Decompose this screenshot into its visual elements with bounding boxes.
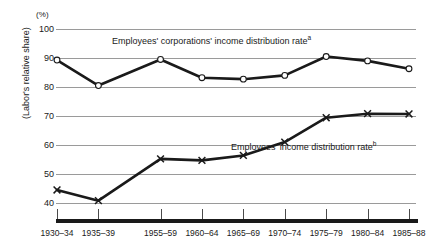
y-axis-tick-60: 60 (28, 140, 54, 150)
y-axis-tick-100: 100 (28, 24, 54, 34)
x-axis-tick-label-0: 1930–34 (40, 228, 73, 238)
x-axis-tick-label-8: 1985–88 (392, 228, 425, 238)
data-point-0-4 (240, 76, 246, 82)
x-axis-tickmark-3 (202, 209, 203, 219)
y-axis-tick-50: 50 (28, 169, 54, 179)
gridline-40 (56, 203, 416, 204)
footnote-marker-a: a (308, 34, 312, 41)
x-axis-tickmark-5 (285, 209, 286, 219)
data-point-0-3 (199, 75, 205, 81)
y-axis-tick-40: 40 (28, 198, 54, 208)
x-axis-tickmark-0 (57, 209, 58, 219)
y-axis-tick-70: 70 (28, 111, 54, 121)
x-axis-tick-label-1: 1935–39 (82, 228, 115, 238)
x-axis-tick-label-2: 1955–59 (144, 228, 177, 238)
x-axis-tick-label-7: 1980–84 (351, 228, 384, 238)
footnote-marker-b: b (373, 140, 377, 147)
x-axis-tickmark-8 (409, 209, 410, 219)
y-axis-title: (Labor's relative share) (15, 8, 29, 138)
plot-area (56, 29, 416, 203)
data-point-0-2 (158, 57, 164, 63)
y-axis-tick-80: 80 (28, 82, 54, 92)
y-axis-tick-90: 90 (28, 53, 54, 63)
x-axis-tickmark-2 (161, 209, 162, 219)
series-layer (56, 29, 416, 203)
data-point-0-7 (365, 58, 371, 64)
x-axis-tick-label-5: 1970–74 (268, 228, 301, 238)
x-axis-tick-label-3: 1960–64 (185, 228, 218, 238)
series-line-0 (57, 57, 409, 86)
x-axis-tick-label-4: 1965–69 (227, 228, 260, 238)
x-axis-tickmark-6 (326, 209, 327, 219)
x-axis-tickmark-1 (98, 209, 99, 219)
y-axis-unit-label: (%) (36, 10, 49, 19)
x-axis-tick-label-6: 1975–79 (310, 228, 343, 238)
data-point-0-5 (282, 73, 288, 79)
x-axis-rule (56, 219, 418, 223)
data-point-0-1 (96, 83, 102, 89)
x-axis-tickmark-7 (368, 209, 369, 219)
data-point-0-0 (54, 57, 60, 63)
x-axis-tickmark-4 (243, 209, 244, 219)
y-axis-title-text: (Labor's relative share) (21, 27, 31, 119)
series-label-employees-corporations-income-distribution-rate: Employees' corporations' income distribu… (112, 36, 311, 46)
line-chart: (%) (Labor's relative share) 10090807060… (0, 0, 432, 247)
data-point-0-8 (406, 66, 412, 72)
series-line-1 (57, 114, 409, 201)
data-point-0-6 (323, 54, 329, 60)
series-label-employees-income-distribution-rate: Employees' income distribution rateb (231, 142, 376, 152)
